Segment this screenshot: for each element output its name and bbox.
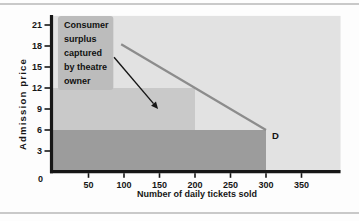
annotation-text-line: Consumer bbox=[64, 20, 109, 30]
x-tick-label: 100 bbox=[116, 180, 131, 190]
bottom-divider-rule bbox=[0, 212, 359, 214]
price-block-quantity-0-200-price-6-12 bbox=[53, 88, 195, 130]
y-tick-label: 12 bbox=[32, 83, 42, 93]
origin-tick-label: 0 bbox=[38, 174, 43, 184]
y-tick-label: 18 bbox=[32, 41, 42, 51]
y-tick-label: 21 bbox=[32, 20, 42, 30]
annotation-text-line: captured bbox=[64, 48, 102, 58]
x-tick-label: 50 bbox=[83, 180, 93, 190]
annotation-text-line: owner bbox=[64, 76, 91, 86]
annotation-text-line: by theatre bbox=[64, 62, 107, 72]
y-axis-title: Admission price bbox=[17, 58, 28, 150]
y-tick-label: 3 bbox=[37, 146, 42, 156]
figure-page: { "frame": { "background": "#fdfdfd", "r… bbox=[0, 0, 359, 221]
y-tick-label: 15 bbox=[32, 62, 42, 72]
price-block-quantity-0-300-price-0-6 bbox=[53, 130, 266, 172]
y-tick-label: 6 bbox=[37, 125, 42, 135]
y-tick-label: 9 bbox=[37, 104, 42, 114]
demand-label: D bbox=[272, 130, 279, 141]
x-tick-label: 350 bbox=[294, 180, 309, 190]
annotation-text-line: surplus bbox=[64, 34, 97, 44]
x-tick-label: 300 bbox=[258, 180, 273, 190]
consumer-surplus-chart: DConsumersurpluscapturedby theatreowner3… bbox=[0, 0, 359, 221]
x-axis-title: Number of daily tickets sold bbox=[137, 189, 257, 199]
